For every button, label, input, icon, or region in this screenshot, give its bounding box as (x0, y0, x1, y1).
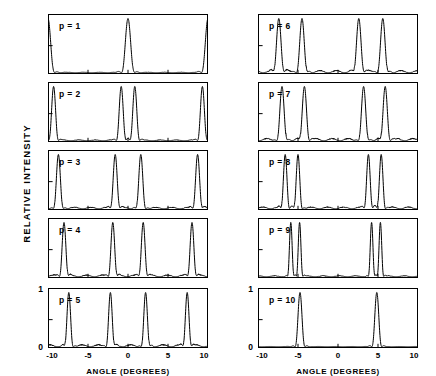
y-tick-label-0: 0 (248, 342, 253, 352)
x-axis-title: ANGLE (DEGREES) (258, 367, 418, 376)
panel-label: p = 3 (59, 157, 81, 167)
x-tick-labels: -10-50510 (258, 351, 418, 363)
x-tick-label: 10 (200, 351, 209, 360)
plot-panel: p = 3 (48, 150, 208, 210)
x-tick-label: 0 (336, 351, 340, 360)
panel-label: p = 5 (59, 295, 81, 305)
plot-panel: p = 6 (258, 14, 418, 74)
x-tick-label: 0 (126, 351, 130, 360)
plot-panel: p = 1010-10-50510ANGLE (DEGREES) (258, 288, 418, 348)
plot-panel: p = 7 (258, 82, 418, 142)
panel-label: p = 9 (269, 225, 291, 235)
x-tick-label: 5 (166, 351, 170, 360)
x-tick-label: -5 (294, 351, 301, 360)
panel-label: p = 7 (269, 89, 291, 99)
x-tick-labels: -10-50510 (48, 351, 208, 363)
x-tick-label: 10 (410, 351, 419, 360)
panel-label: p = 1 (59, 21, 81, 31)
y-axis-label: RELATIVE INTENSITY (21, 114, 32, 254)
panel-label: p = 6 (269, 21, 291, 31)
x-tick-label: -10 (256, 351, 268, 360)
panel-label: p = 8 (269, 157, 291, 167)
x-tick-label: -5 (84, 351, 91, 360)
plot-panel: p = 9 (258, 218, 418, 278)
plot-panel: p = 510-10-50510ANGLE (DEGREES) (48, 288, 208, 348)
plot-panel: p = 4 (48, 218, 208, 278)
plot-panel: p = 2 (48, 82, 208, 142)
y-tick-label-0: 0 (38, 342, 43, 352)
y-tick-label-1: 1 (38, 284, 43, 294)
panel-label: p = 4 (59, 225, 81, 235)
x-tick-label: -10 (46, 351, 58, 360)
panel-label: p = 2 (59, 89, 81, 99)
panel-label: p = 10 (269, 295, 296, 305)
x-tick-label: 5 (376, 351, 380, 360)
y-tick-label-1: 1 (248, 284, 253, 294)
plot-panel: p = 1 (48, 14, 208, 74)
x-axis-title: ANGLE (DEGREES) (48, 367, 208, 376)
plot-panel: p = 8 (258, 150, 418, 210)
